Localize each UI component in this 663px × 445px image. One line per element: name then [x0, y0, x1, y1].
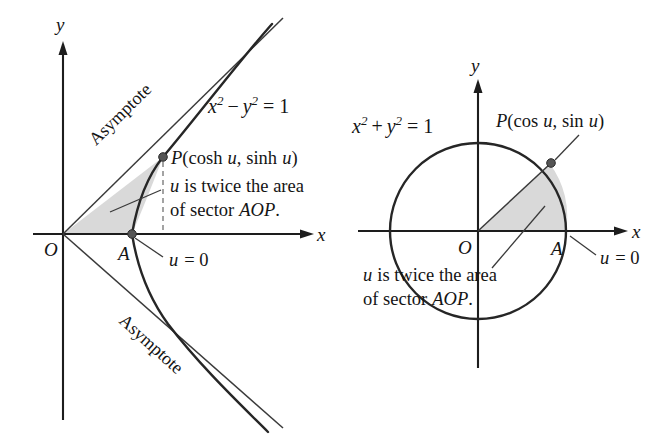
- hyperbola-area-annotation: uis twice the area of sectorAOP.: [170, 176, 304, 220]
- hyp-p-comma: ,: [237, 148, 242, 168]
- circle-origin-label: O: [458, 237, 472, 258]
- hyperbola-zero-leader: [135, 238, 163, 257]
- math-figure: y x O A x2−y2= 1 Asymptote Asymptote P(c…: [0, 0, 663, 445]
- cir-eq-x: x: [351, 115, 361, 137]
- cir-eq-y: y: [385, 115, 396, 138]
- hyp-note1-u: u: [170, 176, 179, 196]
- circle-zero-leader: [570, 236, 596, 255]
- circle-equation-label: x2+y2= 1: [351, 113, 433, 138]
- hyp-note1-rest: is twice the area: [184, 176, 304, 196]
- cir-note1-rest: is twice the area: [377, 265, 497, 285]
- cir-eq-eq: = 1: [407, 115, 433, 137]
- circle-y-axis-arrow: [474, 79, 483, 93]
- cir-note2-period: .: [468, 289, 473, 309]
- hyperbola-equation-label: x2−y2= 1: [207, 93, 289, 118]
- hyp-zero-eq: = 0: [184, 250, 208, 270]
- svg-text:P(coshu,sinhu): P(coshu,sinhu): [170, 148, 298, 169]
- hyp-eq-eq: = 1: [263, 95, 289, 117]
- circle-point-p-leader: [555, 135, 579, 160]
- hyperbola-vertex-label: A: [116, 243, 130, 264]
- cir-p-cos: cos: [513, 111, 538, 131]
- hyperbola-y-axis-label: y: [54, 14, 65, 35]
- hyp-p: P: [170, 148, 182, 168]
- hyp-p-close: ): [291, 148, 297, 169]
- svg-text:x2+y2= 1: x2+y2= 1: [351, 113, 433, 138]
- hyp-eq-sup1: 2: [217, 93, 224, 108]
- hyperbola-x-axis-arrow: [300, 230, 314, 239]
- circle-zero-label: u= 0: [600, 248, 640, 268]
- circle-x-axis-label: x: [631, 221, 641, 242]
- circle-vertex-label: A: [549, 238, 563, 259]
- cir-p: P: [495, 111, 507, 131]
- cir-zero-eq: = 0: [615, 248, 639, 268]
- hyperbola-point-a-dot: [128, 230, 137, 239]
- hyperbola-y-axis-arrow: [59, 41, 68, 55]
- svg-text:of sectorAOP.: of sectorAOP.: [170, 200, 280, 220]
- hyperbola-point-p-dot: [159, 153, 168, 162]
- cir-p-close: ): [598, 111, 604, 132]
- circle-x-axis-arrow: [614, 227, 628, 236]
- hyp-note2-period: .: [275, 200, 280, 220]
- cir-p-u2: u: [589, 111, 598, 131]
- hyperbola-asymptote-lower-label: Asymptote: [115, 310, 187, 378]
- hyp-p-cosh: cosh: [188, 148, 222, 168]
- svg-text:P(cosu,sinu): P(cosu,sinu): [495, 111, 604, 132]
- hyperbola-point-p-label: P(coshu,sinhu): [170, 148, 298, 169]
- hyperbola-asymptote-upper-label: Asymptote: [85, 79, 155, 149]
- hyperbola-curve: [132, 24, 272, 432]
- cir-p-comma: ,: [552, 111, 557, 131]
- svg-text:x2−y2= 1: x2−y2= 1: [207, 93, 289, 118]
- cir-eq-sup1: 2: [361, 113, 368, 128]
- hyperbola-panel: y x O A x2−y2= 1 Asymptote Asymptote P(c…: [33, 14, 326, 432]
- hyp-eq-minus: −: [227, 95, 238, 117]
- hyp-p-sinh: sinh: [246, 148, 277, 168]
- svg-text:uis twice the area: uis twice the area: [363, 265, 497, 285]
- circle-point-p-dot: [547, 159, 556, 168]
- hyperbola-origin-label: O: [44, 239, 58, 260]
- hyp-zero-u: u: [169, 250, 178, 270]
- cir-eq-sup2: 2: [396, 113, 403, 128]
- hyp-note2-aop: AOP: [237, 200, 275, 220]
- hyp-note2-pre: of sector: [170, 200, 234, 220]
- cir-p-u1: u: [543, 111, 552, 131]
- circle-area-annotation: uis twice the area of sectorAOP.: [363, 265, 497, 309]
- cir-note1-u: u: [363, 265, 372, 285]
- hyp-eq-x: x: [207, 95, 217, 117]
- cir-note2-pre: of sector: [363, 289, 427, 309]
- circle-sector-shading: [478, 164, 567, 231]
- hyp-eq-sup2: 2: [252, 93, 259, 108]
- circle-panel: y x O A x2+y2= 1 P(cosu,sinu) uis twice …: [351, 55, 641, 368]
- hyp-p-u2: u: [282, 148, 291, 168]
- hyp-eq-y: y: [241, 95, 252, 118]
- svg-text:of sectorAOP.: of sectorAOP.: [363, 289, 473, 309]
- cir-eq-plus: +: [371, 115, 382, 137]
- hyperbola-x-axis-label: x: [316, 224, 326, 245]
- hyperbola-zero-label: u= 0: [169, 250, 209, 270]
- svg-text:uis twice the area: uis twice the area: [170, 176, 304, 196]
- hyp-p-u1: u: [227, 148, 236, 168]
- circle-y-axis-label: y: [469, 55, 480, 76]
- circle-point-p-label: P(cosu,sinu): [495, 111, 604, 132]
- figure-container: y x O A x2−y2= 1 Asymptote Asymptote P(c…: [0, 0, 663, 445]
- cir-p-sin: sin: [562, 111, 584, 131]
- cir-note2-aop: AOP: [430, 289, 468, 309]
- cir-zero-u: u: [600, 248, 609, 268]
